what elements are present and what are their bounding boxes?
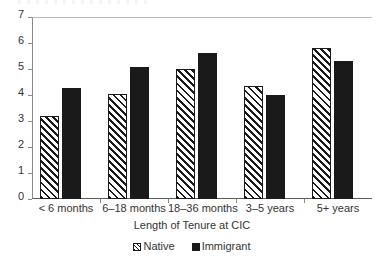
x-axis-title: Length of Tenure at CIC [0, 219, 384, 232]
x-axis-tick-label: 5+ years [304, 202, 372, 215]
y-axis-tick-label: 6 [18, 35, 24, 46]
x-axis-tick-label: < 6 months [32, 202, 100, 215]
legend-swatch-immigrant-icon [192, 243, 200, 251]
y-axis-tick-label: 5 [18, 61, 24, 72]
bar-native-0 [40, 116, 59, 199]
bar-group [100, 17, 168, 199]
bar-native-4 [312, 48, 331, 199]
bar-group [304, 17, 372, 199]
x-axis-tick-label: 6–18 months [100, 202, 168, 215]
legend-swatch-native-icon [133, 243, 141, 251]
bar-chart: 01234567 < 6 months6–18 months18–36 mont… [0, 0, 384, 263]
bar-native-3 [244, 86, 263, 199]
bar-native-2 [176, 69, 195, 199]
bar-immigrant-1 [130, 67, 149, 199]
legend-item-native: Native [133, 240, 174, 253]
bar-group [236, 17, 304, 199]
bar-immigrant-2 [198, 53, 217, 199]
y-axis-tick-label: 4 [18, 87, 24, 98]
bar-immigrant-4 [334, 61, 353, 199]
y-axis: 01234567 [0, 17, 32, 200]
chart-legend: Native Immigrant [0, 240, 384, 253]
x-axis-tick-labels: < 6 months6–18 months18–36 months3–5 yea… [32, 202, 372, 218]
x-axis-tick-label: 3–5 years [236, 202, 304, 215]
bar-native-1 [108, 94, 127, 199]
bars-layer [32, 17, 372, 199]
legend-label-immigrant: Immigrant [202, 240, 251, 253]
bar-group [32, 17, 100, 199]
legend-item-immigrant: Immigrant [192, 240, 251, 253]
x-axis-tick-label: 18–36 months [168, 202, 236, 215]
scan-edge-artifact [18, 0, 148, 4]
y-axis-tick-label: 0 [18, 191, 24, 202]
bar-immigrant-3 [266, 95, 285, 199]
bar-immigrant-0 [62, 88, 81, 199]
y-axis-tick-label: 3 [18, 113, 24, 124]
y-axis-tick-label: 2 [18, 139, 24, 150]
y-axis-tick-label: 7 [18, 9, 24, 20]
y-axis-tick-mark [28, 199, 32, 200]
bar-group [168, 17, 236, 199]
y-axis-tick-label: 1 [18, 165, 24, 176]
legend-label-native: Native [143, 240, 174, 253]
